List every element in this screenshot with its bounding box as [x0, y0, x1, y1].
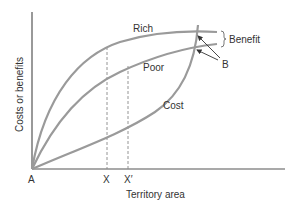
rich-label: Rich — [133, 23, 153, 34]
b-point-label: B — [222, 59, 229, 70]
rich-curve — [32, 31, 217, 169]
b-arrow-poor — [197, 50, 218, 60]
x-tick-label: X — [103, 174, 110, 185]
x-axis-title: Territory area — [126, 189, 185, 200]
y-axis-title: Costs or benefits — [14, 57, 25, 132]
benefit-label: Benefit — [229, 34, 260, 45]
poor-curve — [32, 44, 217, 169]
cost-label: Cost — [163, 100, 184, 111]
territory-cost-benefit-diagram: Rich Poor Cost Benefit B A X X′ Territor… — [0, 0, 293, 206]
poor-label: Poor — [143, 62, 165, 73]
x-prime-tick-label: X′ — [124, 174, 133, 185]
origin-label: A — [28, 174, 35, 185]
benefit-bracket — [221, 31, 226, 47]
